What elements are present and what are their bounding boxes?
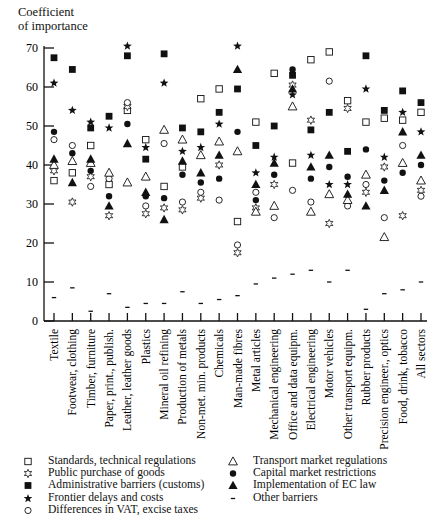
legend-item: Differences in VAT, excise taxes	[22, 504, 204, 516]
x-category-label: Motor vehicles	[323, 328, 335, 398]
legend-label: Other barriers	[253, 492, 318, 504]
filled-square-marker	[161, 50, 168, 57]
open-circle-marker	[179, 199, 185, 205]
filled-circle-marker	[418, 162, 424, 168]
filled-square-marker	[142, 156, 149, 163]
filled-triangle-marker	[196, 168, 205, 176]
open-star-marker	[326, 219, 333, 227]
open-circle-icon-shape	[25, 507, 31, 513]
open-circle-marker	[363, 181, 369, 187]
filled-triangle-marker	[398, 127, 407, 135]
y-tick-label: 30	[26, 197, 38, 211]
open-square-marker	[399, 117, 405, 123]
open-square-marker	[161, 183, 167, 189]
filled-star-marker	[123, 41, 132, 49]
y-tick-label: 20	[26, 236, 38, 250]
filled-circle-marker	[124, 121, 130, 127]
filled-circle-marker	[363, 146, 369, 152]
x-category-label: Mineral oil refining	[158, 329, 171, 420]
filled-circle-icon-shape	[230, 471, 236, 477]
open-triangle-marker	[398, 158, 407, 166]
filled-circle-marker	[271, 172, 277, 178]
x-category-label: Chemicals	[213, 328, 225, 377]
open-star-marker	[381, 163, 388, 171]
open-circle-marker	[418, 193, 424, 199]
open-square-marker	[363, 119, 369, 125]
legend-column-left: Standards, technical regulationsPublic p…	[22, 455, 204, 516]
open-triangle-marker	[362, 170, 371, 178]
filled-square-marker	[124, 52, 131, 59]
open-circle-marker	[253, 189, 259, 195]
filled-square-marker	[418, 99, 425, 106]
filled-square-marker	[69, 66, 76, 73]
y-tick-label: 10	[26, 275, 38, 289]
x-category-label: Electrical engineering	[305, 329, 318, 430]
filled-circle-marker	[234, 129, 240, 135]
filled-square-marker	[271, 123, 278, 130]
open-triangle-marker	[196, 151, 205, 159]
open-square-marker	[69, 170, 75, 176]
open-square-marker	[418, 109, 424, 115]
legend-item: Frontier delays and costs	[22, 492, 204, 504]
filled-square-marker	[344, 148, 351, 155]
x-category-label: Man-made fibres	[232, 328, 244, 407]
x-category-label: Precision engineer., optics	[378, 328, 391, 449]
open-triangle-marker	[160, 125, 169, 133]
filled-circle-marker	[51, 129, 57, 135]
filled-circle-marker	[69, 150, 75, 156]
scatter-plot: 010203040506070 TextileFootwear, clothin…	[0, 0, 442, 455]
filled-star-marker	[251, 168, 260, 176]
x-category-label: All sectors	[415, 328, 427, 378]
filled-triangle-marker	[361, 201, 370, 209]
open-triangle-marker	[325, 190, 334, 198]
y-tick-label: 40	[26, 158, 38, 172]
filled-star-marker	[141, 143, 150, 151]
open-triangle-marker	[178, 135, 187, 143]
open-square-marker	[179, 164, 185, 170]
filled-circle-marker	[179, 172, 185, 178]
y-tick-label: 0	[32, 314, 38, 328]
legend-column-right: Transport market regulationsCapital mark…	[227, 455, 387, 504]
x-category-label: Production of metals	[176, 328, 188, 424]
filled-star-icon	[22, 492, 36, 504]
filled-circle-marker	[344, 174, 350, 180]
open-square-marker	[143, 136, 149, 142]
legend-item: Other barriers	[227, 492, 387, 504]
filled-star-marker	[233, 41, 242, 49]
open-square-marker	[326, 49, 332, 55]
filled-star-marker	[68, 106, 77, 114]
filled-triangle-marker	[160, 215, 169, 223]
open-triangle-marker	[68, 157, 77, 165]
filled-triangle-marker	[233, 65, 242, 73]
filled-star-marker	[380, 153, 389, 161]
filled-square-icon	[22, 479, 36, 491]
x-axis-labels: TextileFootwear, clothingTimber, furnitu…	[48, 328, 427, 449]
x-category-label: Non-met. min. products	[195, 328, 208, 438]
open-square-marker	[216, 86, 222, 92]
open-circle-marker	[88, 183, 94, 189]
filled-triangle-marker	[68, 178, 77, 186]
open-circle-marker	[400, 142, 406, 148]
filled-star-marker	[362, 84, 371, 92]
open-square-marker	[198, 96, 204, 102]
filled-circle-marker	[253, 197, 259, 203]
filled-star-marker	[343, 180, 352, 188]
open-square-marker	[253, 119, 259, 125]
filled-star-marker	[307, 151, 316, 159]
x-category-label: Metal articles	[250, 328, 262, 391]
filled-circle-marker	[308, 175, 314, 181]
open-square-marker	[51, 177, 57, 183]
legend-label: Implementation of EC law	[253, 479, 376, 491]
filled-square-marker	[216, 109, 223, 116]
y-tick-label: 70	[26, 41, 38, 55]
open-circle-marker	[161, 140, 167, 146]
filled-triangle-marker	[325, 150, 334, 158]
open-circle-marker	[289, 187, 295, 193]
open-square-icon	[22, 455, 36, 467]
x-category-label: Timber, furniture	[85, 329, 98, 408]
open-triangle-marker	[251, 207, 260, 215]
open-circle-marker	[381, 215, 387, 221]
filled-star-marker	[398, 108, 407, 116]
open-circle-marker	[216, 197, 222, 203]
open-star-marker	[216, 161, 223, 169]
